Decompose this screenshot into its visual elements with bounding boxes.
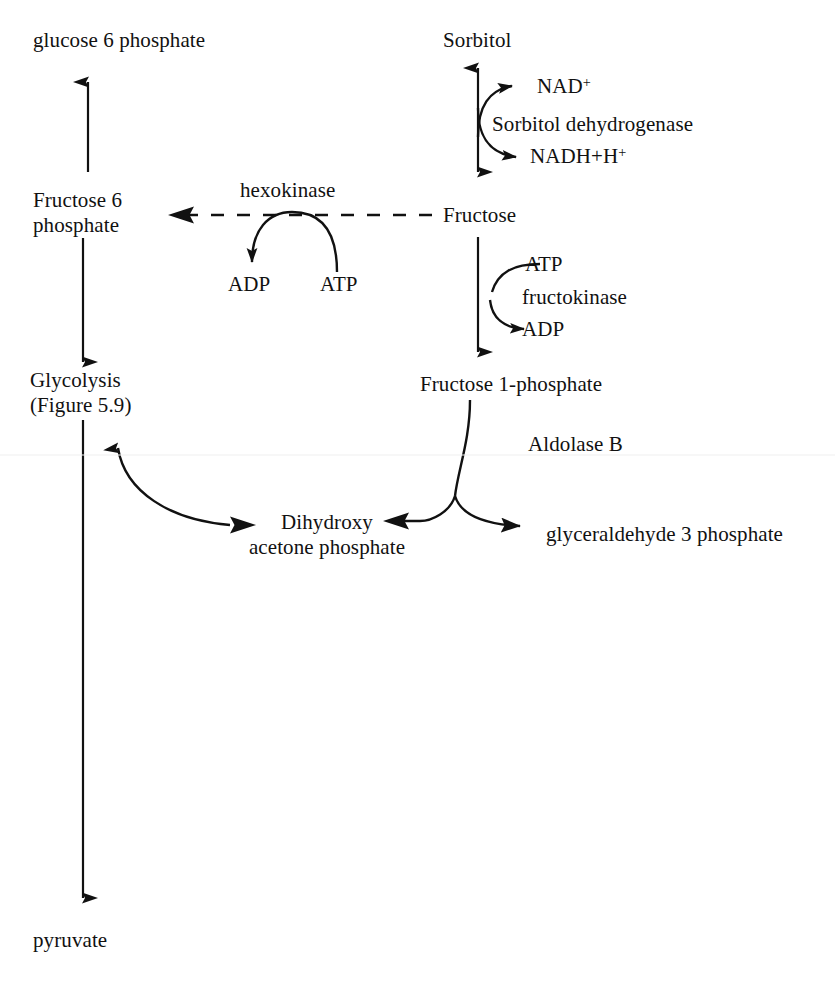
label-fructose: Fructose [443, 203, 516, 228]
label-nadh-h-text: NADH+H [530, 144, 618, 168]
label-fructokinase: fructokinase [522, 285, 627, 310]
label-glycolysis-figure-ref: (Figure 5.9) [30, 393, 132, 417]
label-adp-hexokinase: ADP [228, 272, 270, 297]
pathway-vector-layer [0, 0, 835, 983]
label-aldolase-b: Aldolase B [528, 432, 623, 457]
pathway-diagram: glucose 6 phosphate Fructose 6 phosphate… [0, 0, 835, 983]
label-fructose-6-phosphate: Fructose 6 phosphate [33, 188, 163, 238]
label-glycolysis-line1: Glycolysis [30, 368, 121, 392]
label-hexokinase: hexokinase [240, 178, 335, 203]
label-glycolysis: Glycolysis (Figure 5.9) [30, 368, 175, 418]
label-glucose-6-phosphate: glucose 6 phosphate [33, 28, 205, 53]
label-nad-plus-text: NAD [537, 74, 583, 98]
label-atp-hexokinase: ATP [320, 272, 358, 297]
label-atp-fructokinase: ATP [525, 252, 563, 277]
label-glyceraldehyde-3-phosphate: glyceraldehyde 3 phosphate [546, 522, 783, 547]
label-dhap-line1: Dihydroxy [281, 510, 373, 534]
label-nad-plus: NAD+ [537, 74, 591, 99]
label-nadh-h-charge: + [618, 144, 626, 160]
label-sorbitol-dehydrogenase: Sorbitol dehydrogenase [492, 112, 693, 137]
arrow-fructose-to-f6p-dashed [168, 207, 432, 224]
label-pyruvate: pyruvate [33, 928, 107, 953]
label-dihydroxyacetone-phosphate: Dihydroxy acetone phosphate [232, 510, 422, 560]
label-nad-plus-charge: + [583, 74, 591, 90]
label-adp-fructokinase: ADP [522, 317, 564, 342]
curve-adp-out-fructokinase [490, 300, 524, 329]
label-fructose-1-phosphate: Fructose 1-phosphate [420, 372, 602, 397]
label-fructose-6-phosphate-line2: phosphate [33, 213, 119, 237]
label-nadh-h: NADH+H+ [530, 144, 626, 169]
label-dhap-line2: acetone phosphate [249, 535, 405, 559]
label-sorbitol: Sorbitol [443, 28, 511, 53]
label-fructose-6-phosphate-line1: Fructose 6 [33, 188, 122, 212]
curve-atp-to-adp-hexokinase [252, 212, 337, 272]
